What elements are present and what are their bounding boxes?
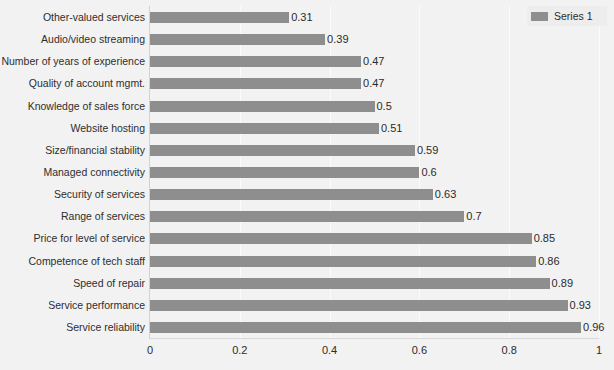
x-tick-label: 0.2 xyxy=(232,344,247,356)
category-label: Website hosting xyxy=(0,123,145,134)
category-label: Competence of tech staff xyxy=(0,256,145,267)
bar-value-label: 0.39 xyxy=(327,34,348,45)
bar-row: Competence of tech staff0.86 xyxy=(0,249,614,271)
x-tick-label: 0.4 xyxy=(322,344,337,356)
bar-row: Size/financial stability0.59 xyxy=(0,139,614,161)
bar-row: Website hosting0.51 xyxy=(0,117,614,139)
bar[interactable] xyxy=(150,300,568,311)
category-label: Service performance xyxy=(0,300,145,311)
bar-row: Knowledge of sales force0.5 xyxy=(0,95,614,117)
category-label: Size/financial stability xyxy=(0,145,145,156)
bar[interactable] xyxy=(150,101,375,112)
bar-row: Service performance0.93 xyxy=(0,294,614,316)
legend-label: Series 1 xyxy=(554,10,593,22)
x-tick-label: 0.6 xyxy=(412,344,427,356)
x-tick-label: 0 xyxy=(147,344,153,356)
bar-row: Number of years of experience0.47 xyxy=(0,50,614,72)
x-axis-line xyxy=(150,338,599,339)
legend[interactable]: Series 1 xyxy=(527,6,607,26)
bar[interactable] xyxy=(150,123,379,134)
category-label: Security of services xyxy=(0,189,145,200)
category-label: Number of years of experience xyxy=(0,56,145,67)
bar-row: Speed of repair0.89 xyxy=(0,272,614,294)
x-tick-label: 0.8 xyxy=(502,344,517,356)
bar-value-label: 0.7 xyxy=(466,211,481,222)
x-tick-label: 1 xyxy=(596,344,602,356)
category-label: Speed of repair xyxy=(0,278,145,289)
bar[interactable] xyxy=(150,278,550,289)
bar-row: Service reliability0.96 xyxy=(0,316,614,338)
bar-value-label: 0.5 xyxy=(377,101,392,112)
category-label: Service reliability xyxy=(0,322,145,333)
bar-row: Range of services0.7 xyxy=(0,205,614,227)
legend-swatch-icon xyxy=(531,12,548,21)
bar-value-label: 0.89 xyxy=(552,278,573,289)
bar-value-label: 0.63 xyxy=(435,189,456,200)
bar-value-label: 0.86 xyxy=(538,256,559,267)
bar-value-label: 0.85 xyxy=(534,233,555,244)
bar-value-label: 0.47 xyxy=(363,78,384,89)
bar-value-label: 0.59 xyxy=(417,145,438,156)
bar-row: Other-valued services0.31 xyxy=(0,6,614,28)
bar-value-label: 0.31 xyxy=(291,12,312,23)
bar[interactable] xyxy=(150,256,536,267)
category-label: Managed connectivity xyxy=(0,167,145,178)
bar-value-label: 0.51 xyxy=(381,123,402,134)
bar[interactable] xyxy=(150,167,419,178)
bar[interactable] xyxy=(150,189,433,200)
bar-value-label: 0.6 xyxy=(421,167,436,178)
category-label: Knowledge of sales force xyxy=(0,101,145,112)
bar-value-label: 0.96 xyxy=(583,322,604,333)
bar-row: Security of services0.63 xyxy=(0,183,614,205)
category-label: Other-valued services xyxy=(0,12,145,23)
bar-row: Quality of account mgmt.0.47 xyxy=(0,72,614,94)
category-label: Audio/video streaming xyxy=(0,34,145,45)
bar-row: Audio/video streaming0.39 xyxy=(0,28,614,50)
bar[interactable] xyxy=(150,56,361,67)
bar[interactable] xyxy=(150,78,361,89)
bar[interactable] xyxy=(150,12,289,23)
bar-row: Managed connectivity0.6 xyxy=(0,161,614,183)
category-label: Price for level of service xyxy=(0,233,145,244)
bar-row: Price for level of service0.85 xyxy=(0,227,614,249)
bar[interactable] xyxy=(150,34,325,45)
bar[interactable] xyxy=(150,233,532,244)
bar-value-label: 0.93 xyxy=(570,300,591,311)
bar[interactable] xyxy=(150,145,415,156)
bar-value-label: 0.47 xyxy=(363,56,384,67)
category-label: Quality of account mgmt. xyxy=(0,78,145,89)
bar-chart: Other-valued services0.31Audio/video str… xyxy=(0,0,614,370)
bar[interactable] xyxy=(150,211,464,222)
bar[interactable] xyxy=(150,322,581,333)
category-label: Range of services xyxy=(0,211,145,222)
